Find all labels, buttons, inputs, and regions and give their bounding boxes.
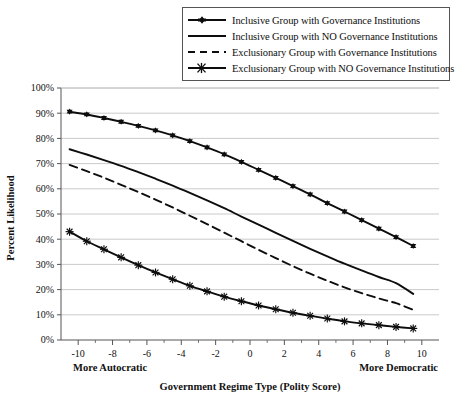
axis-note-more-democratic: More Democratic	[359, 362, 438, 373]
y-tick-label: 10%	[36, 309, 54, 320]
data-point-marker	[117, 253, 125, 261]
x-tick-label: 0	[248, 348, 253, 359]
legend-item-exclusionary-with-governance[interactable]: Exclusionary Group with Governance Insti…	[187, 44, 443, 60]
y-tick-label: 50%	[36, 208, 54, 219]
legend-key-line-marker-triangle	[187, 13, 227, 27]
data-point-marker	[169, 275, 177, 283]
y-tick-label: 20%	[36, 284, 54, 295]
data-point-marker	[220, 293, 228, 301]
data-point-marker	[323, 315, 331, 323]
data-point-marker	[186, 282, 194, 290]
x-tick-label: 10	[417, 348, 427, 359]
x-tick-label: -6	[143, 348, 151, 359]
data-point-marker	[100, 245, 108, 253]
y-tick-label: 0%	[41, 334, 54, 345]
x-tick-label: 4	[316, 348, 321, 359]
legend-key-line-dashed	[187, 45, 227, 59]
legend-label: Inclusive Group with NO Governance Insti…	[232, 31, 438, 42]
legend-item-inclusive-with-governance[interactable]: Inclusive Group with Governance Institut…	[187, 12, 443, 28]
chart-legend: Inclusive Group with Governance Institut…	[182, 7, 450, 81]
legend-item-inclusive-no-governance[interactable]: Inclusive Group with NO Governance Insti…	[187, 28, 443, 44]
legend-label: Exclusionary Group with Governance Insti…	[232, 47, 437, 58]
data-point-marker	[134, 261, 142, 269]
legend-item-exclusionary-no-governance[interactable]: Exclusionary Group with NO Governance In…	[187, 60, 443, 76]
x-tick-label: 2	[282, 348, 287, 359]
x-axis-title: Government Regime Type (Polity Score)	[160, 381, 341, 393]
axis-note-more-autocratic: More Autocratic	[73, 362, 147, 373]
data-point-marker	[289, 309, 297, 317]
data-point-marker	[375, 321, 383, 329]
x-tick-label: 6	[351, 348, 356, 359]
data-point-marker	[152, 268, 160, 276]
y-tick-label: 30%	[36, 259, 54, 270]
x-tick-label: -10	[72, 348, 85, 359]
data-point-marker	[306, 312, 314, 320]
data-point-marker	[203, 287, 211, 295]
data-point-marker	[409, 324, 417, 332]
x-tick-label: 8	[385, 348, 390, 359]
data-point-marker	[83, 237, 91, 245]
chart-figure: -10-8-6-4-20246810 0%10%20%30%40%50%60%7…	[0, 0, 455, 401]
data-point-marker	[255, 301, 263, 309]
legend-key-line-marker-asterisk	[187, 61, 227, 75]
y-tick-label: 60%	[36, 183, 54, 194]
legend-key-line-solid	[187, 29, 227, 43]
x-tick-label: -4	[177, 348, 185, 359]
legend-label: Exclusionary Group with NO Governance In…	[232, 63, 454, 74]
y-tick-label: 80%	[36, 133, 54, 144]
y-tick-label: 90%	[36, 108, 54, 119]
legend-label: Inclusive Group with Governance Institut…	[232, 15, 420, 26]
y-tick-label: 100%	[31, 82, 54, 93]
data-point-marker	[272, 305, 280, 313]
data-point-marker	[392, 323, 400, 331]
y-tick-label: 70%	[36, 158, 54, 169]
x-tick-label: -8	[108, 348, 116, 359]
data-point-marker	[237, 297, 245, 305]
data-point-marker	[66, 228, 74, 236]
data-point-marker	[341, 317, 349, 325]
y-axis-title: Percent Likelihood	[5, 175, 16, 260]
x-tick-label: -2	[211, 348, 219, 359]
y-tick-label: 40%	[36, 234, 54, 245]
data-point-marker	[358, 319, 366, 327]
